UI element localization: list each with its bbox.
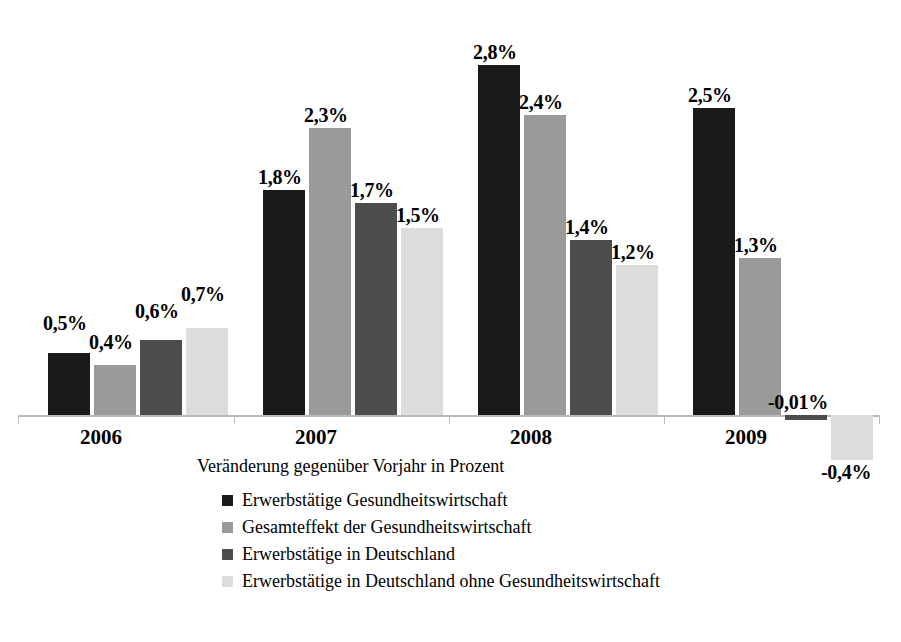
- chart-caption: Veränderung gegenüber Vorjahr in Prozent: [197, 456, 504, 477]
- bar-value-label: 1,2%: [611, 241, 655, 264]
- legend-swatch-icon: [222, 522, 233, 533]
- bar-group-2009: 2,5% 1,3% -0,01% -0,4%: [693, 0, 883, 470]
- bar-value-label: 1,4%: [565, 216, 609, 239]
- bar-value-label: 1,7%: [350, 179, 394, 202]
- bar-2007-erwerbstaetige-deutschland[interactable]: [355, 203, 397, 415]
- bar-2006-erwerbstaetige-ohne-gw[interactable]: [186, 328, 228, 415]
- bar-value-label: -0,4%: [821, 461, 871, 484]
- bar-2009-erwerbstaetige-deutschland[interactable]: [785, 415, 827, 420]
- bar-value-label: 0,6%: [135, 300, 179, 323]
- bar-group-2008: 2,8% 2,4% 1,4% 1,2%: [478, 0, 668, 470]
- bar-group-2006: 0,5% 0,4% 0,6% 0,7%: [48, 0, 238, 470]
- bar-2006-erwerbstaetige-gesundheitswirtschaft[interactable]: [48, 353, 90, 415]
- bar-2009-erwerbstaetige-ohne-gw[interactable]: [831, 415, 873, 460]
- bar-value-label: 2,3%: [304, 104, 348, 127]
- bar-2007-gesamteffekt[interactable]: [309, 128, 351, 415]
- bar-2007-erwerbstaetige-ohne-gw[interactable]: [401, 228, 443, 415]
- chart-legend: Erwerbstätige Gesundheitswirtschaft Gesa…: [222, 487, 660, 595]
- bar-2006-erwerbstaetige-deutschland[interactable]: [140, 340, 182, 415]
- axis-label-2006: 2006: [80, 425, 122, 450]
- bar-value-label: 2,8%: [473, 41, 517, 64]
- bar-value-label: 0,4%: [89, 331, 133, 354]
- bar-2008-gesamteffekt[interactable]: [524, 115, 566, 415]
- axis-tick: [18, 415, 19, 424]
- bar-group-2007: 1,8% 2,3% 1,7% 1,5%: [263, 0, 453, 470]
- legend-swatch-icon: [222, 576, 233, 587]
- bar-2006-gesamteffekt[interactable]: [94, 365, 136, 415]
- bar-2008-erwerbstaetige-ohne-gw[interactable]: [616, 265, 658, 415]
- legend-item-label: Erwerbstätige in Deutschland: [242, 544, 455, 565]
- legend-item[interactable]: Erwerbstätige Gesundheitswirtschaft: [222, 487, 660, 514]
- legend-item-label: Erwerbstätige in Deutschland ohne Gesund…: [242, 571, 660, 592]
- legend-item[interactable]: Erwerbstätige in Deutschland: [222, 541, 660, 568]
- plot-area: 0,5% 0,4% 0,6% 0,7% 2006 1,8% 2,3% 1,7% …: [0, 0, 901, 470]
- bar-value-label: 0,5%: [43, 312, 87, 335]
- bar-value-label: -0,01%: [768, 391, 828, 414]
- bar-value-label: 0,7%: [181, 283, 225, 306]
- legend-swatch-icon: [222, 549, 233, 560]
- bar-2008-erwerbstaetige-gesundheitswirtschaft[interactable]: [478, 65, 520, 415]
- legend-item-label: Erwerbstätige Gesundheitswirtschaft: [242, 490, 507, 511]
- bar-chart: 0,5% 0,4% 0,6% 0,7% 2006 1,8% 2,3% 1,7% …: [0, 0, 901, 642]
- bar-value-label: 1,5%: [396, 204, 440, 227]
- axis-label-2009: 2009: [725, 425, 767, 450]
- bar-2007-erwerbstaetige-gesundheitswirtschaft[interactable]: [263, 190, 305, 415]
- legend-item[interactable]: Gesamteffekt der Gesundheitswirtschaft: [222, 514, 660, 541]
- bar-value-label: 1,3%: [734, 234, 778, 257]
- legend-swatch-icon: [222, 495, 233, 506]
- axis-label-2008: 2008: [510, 425, 552, 450]
- bar-2009-erwerbstaetige-gesundheitswirtschaft[interactable]: [693, 108, 735, 415]
- bar-value-label: 2,4%: [519, 91, 563, 114]
- axis-label-2007: 2007: [295, 425, 337, 450]
- legend-item[interactable]: Erwerbstätige in Deutschland ohne Gesund…: [222, 568, 660, 595]
- legend-item-label: Gesamteffekt der Gesundheitswirtschaft: [242, 517, 532, 538]
- bar-2008-erwerbstaetige-deutschland[interactable]: [570, 240, 612, 415]
- bar-value-label: 2,5%: [688, 84, 732, 107]
- bar-value-label: 1,8%: [258, 166, 302, 189]
